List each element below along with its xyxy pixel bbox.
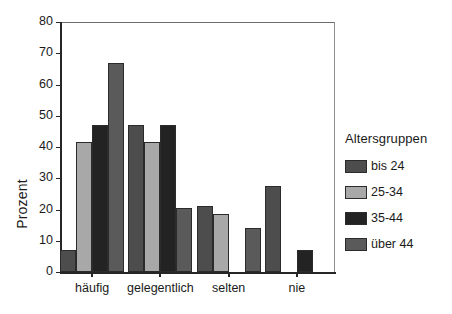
legend-items: bis 2425-3435-44über 44: [345, 159, 452, 251]
x-axis-tick: [228, 272, 230, 277]
bar: [160, 125, 176, 272]
legend-label: bis 24: [371, 159, 404, 173]
x-axis-label: selten: [212, 281, 245, 295]
legend-swatch: [345, 238, 367, 251]
y-axis-label: 70: [10, 45, 62, 59]
x-axis-tick: [91, 272, 93, 277]
bar: [197, 206, 213, 272]
y-axis-title: Prozent: [14, 144, 30, 264]
bar: [128, 125, 144, 272]
bar-chart-figure: 01020304050607080 Prozent häufiggelegent…: [0, 0, 452, 314]
y-axis-label: 50: [10, 108, 62, 122]
bar: [92, 125, 108, 272]
x-axis-label: gelegentlich: [127, 281, 194, 295]
legend-label: 25-34: [371, 185, 403, 199]
x-axis-tick: [296, 272, 298, 277]
bar: [144, 142, 160, 272]
legend-item: bis 24: [345, 159, 452, 173]
legend-title: Altersgruppen: [345, 131, 452, 146]
y-axis-label: 0: [10, 264, 62, 278]
bar: [265, 186, 281, 272]
y-axis-label: 80: [10, 14, 62, 28]
y-axis-label: 60: [10, 77, 62, 91]
bar: [245, 228, 261, 272]
legend-swatch: [345, 160, 367, 173]
legend-item: über 44: [345, 237, 452, 251]
legend-swatch: [345, 186, 367, 199]
bar: [76, 142, 92, 272]
legend-item: 35-44: [345, 211, 452, 225]
bar: [213, 214, 229, 272]
legend-swatch: [345, 212, 367, 225]
bar: [297, 250, 313, 272]
clipped-top-text-strip: [0, 0, 452, 11]
bar: [108, 63, 124, 272]
x-axis-tick: [159, 272, 161, 277]
x-axis-label: nie: [289, 281, 306, 295]
x-axis-label: häufig: [75, 281, 109, 295]
legend-label: 35-44: [371, 211, 403, 225]
bar: [60, 250, 76, 272]
bar: [176, 208, 192, 272]
plot-area: [62, 22, 335, 272]
legend-label: über 44: [371, 237, 413, 251]
x-axis-line: [60, 272, 336, 274]
legend-item: 25-34: [345, 185, 452, 199]
legend: Altersgruppen bis 2425-3435-44über 44: [345, 131, 452, 263]
